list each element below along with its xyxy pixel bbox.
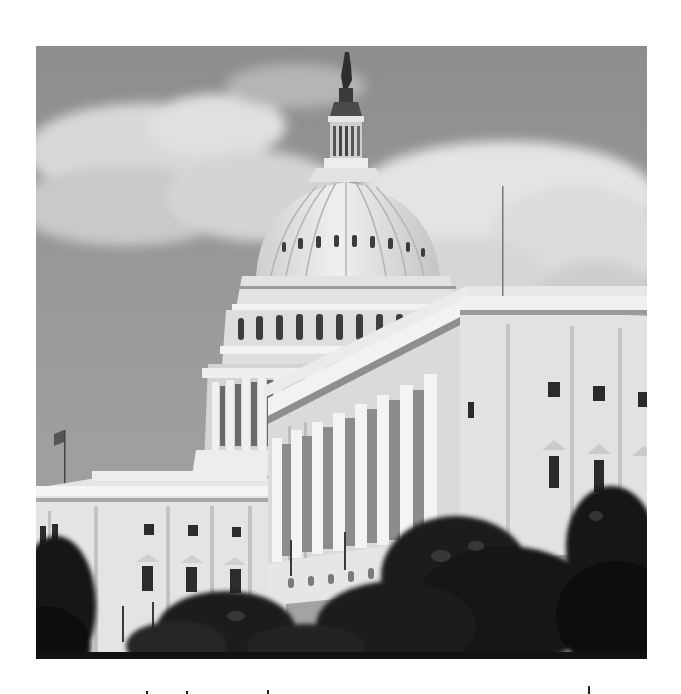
capitol-illustration	[36, 46, 647, 659]
cropped-caption-fragment	[0, 686, 681, 694]
capitol-photograph	[36, 46, 647, 659]
